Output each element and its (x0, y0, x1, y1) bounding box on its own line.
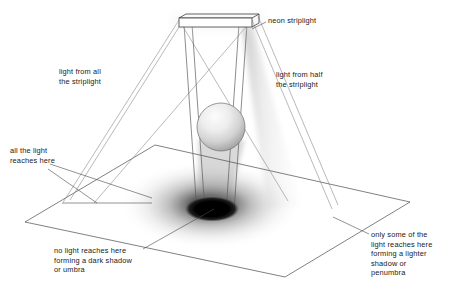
label-neon-striplight: neon striplight (268, 16, 316, 26)
neon-striplight (179, 14, 259, 27)
label-umbra: no light reaches here forming a dark sha… (54, 246, 132, 275)
sphere (197, 103, 245, 151)
label-light-from-half: light from half the striplight (276, 70, 323, 89)
label-light-from-all: light from all the striplight (59, 67, 101, 86)
label-penumbra: only some of the light reaches here form… (371, 230, 432, 278)
striplight-front-face (179, 18, 252, 27)
leader-penumbra (333, 217, 369, 234)
striplight-top-face (179, 14, 259, 18)
umbra-shadow (185, 197, 239, 222)
leader-all-light-a (48, 169, 97, 203)
label-all-light-reaches-here: all the light reaches here (10, 146, 55, 165)
diagram-canvas: neon striplight light from all the strip… (0, 0, 454, 294)
